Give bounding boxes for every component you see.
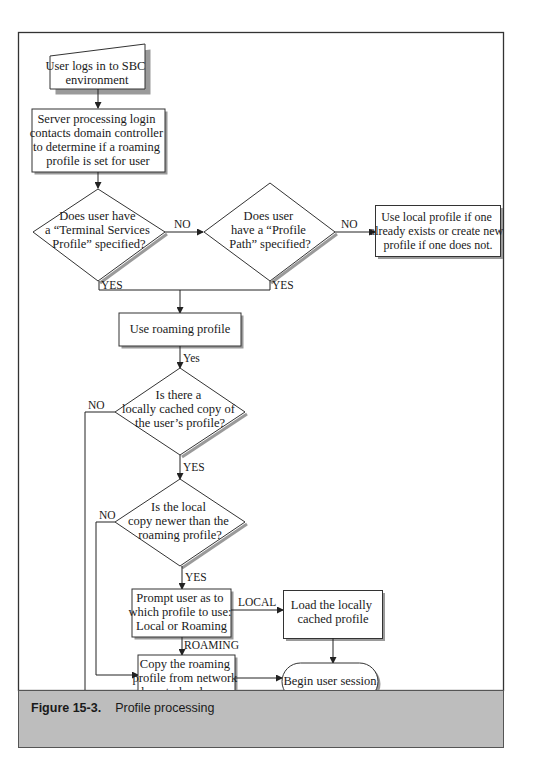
node-contact-dc-text: Server processing login contacts domain … [30,112,166,168]
node-use-local-text: Use local profile if one already exists … [370,210,506,252]
edge-label-newer-yes: YES [185,571,207,583]
node-prompt: Prompt user as to which profile to use: … [128,589,234,640]
figure-title: Profile processing [115,701,214,715]
edge-label-path-no: NO [341,218,358,230]
edge-label-ts-no: NO [174,218,191,230]
edge-label-prompt-local: LOCAL [238,596,276,608]
node-use-roaming-text: Use roaming profile [130,322,231,336]
edge-label-prompt-roaming: ROAMING [184,639,239,651]
node-use-roaming: Use roaming profile [119,313,244,349]
node-load-local-text: Load the locally cached profile [291,598,375,626]
edge-label-newer-no: NO [99,509,116,521]
node-load-local: Load the locally cached profile [284,591,386,642]
figure-caption: Figure 15-3.Profile processing [31,701,215,715]
node-begin-text: Begin user session [283,674,377,688]
flowchart: User logs in to SBC environment Server p… [0,0,537,762]
node-contact-dc: Server processing login contacts domain … [30,109,168,175]
edge-label-path-yes: YES [272,279,294,291]
node-ts-profile-text: Does user have a “Terminal Services Prof… [45,209,153,251]
edge-label-cached-no: NO [88,399,105,411]
edge-label-cached-yes: YES [183,461,205,473]
edge-label-roaming-yes: Yes [183,352,200,364]
node-use-local: Use local profile if one already exists … [370,206,506,260]
edge-label-ts-yes: YES [101,279,123,291]
figure-caption-bar: Figure 15-3.Profile processing [18,690,504,748]
figure-label: Figure 15-3. [31,701,101,715]
node-prompt-text: Prompt user as to which profile to use: … [128,591,234,633]
